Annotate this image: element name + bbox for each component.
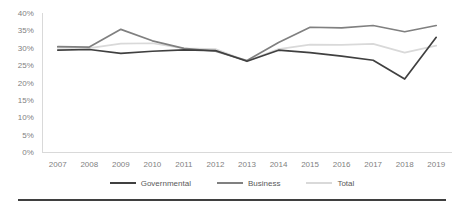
x-axis-tick: 2009	[112, 160, 130, 169]
x-axis-tick: 2015	[301, 160, 319, 169]
legend-item[interactable]: Total	[306, 179, 354, 188]
series-line	[58, 37, 436, 79]
x-axis-tick: 2018	[396, 160, 414, 169]
legend-label: Business	[248, 179, 280, 188]
x-axis-tick: 2014	[270, 160, 288, 169]
x-axis-tick: 2007	[49, 160, 67, 169]
legend-item[interactable]: Business	[217, 179, 280, 188]
x-axis-tick-labels: 2007200820092010201120122013201420152016…	[0, 160, 464, 174]
x-axis-tick: 2019	[427, 160, 445, 169]
legend-label: Governmental	[141, 179, 191, 188]
series-line	[58, 26, 436, 61]
plot-area: 40%35%30%25%20%15%10%5%0%	[0, 0, 464, 160]
chart-legend: GovernmentalBusinessTotal	[0, 176, 464, 190]
x-axis-tick: 2011	[175, 160, 192, 169]
bottom-divider	[18, 199, 446, 201]
x-axis-tick: 2010	[143, 160, 161, 169]
line-chart-figure: 40%35%30%25%20%15%10%5%0% 20072008200920…	[0, 0, 464, 206]
x-axis-tick: 2008	[80, 160, 98, 169]
series-lines	[0, 0, 464, 160]
legend-swatch-icon	[110, 182, 136, 184]
x-axis-tick: 2016	[333, 160, 351, 169]
legend-swatch-icon	[306, 182, 332, 184]
legend-swatch-icon	[217, 182, 243, 184]
legend-item[interactable]: Governmental	[110, 179, 191, 188]
x-axis-tick: 2013	[238, 160, 256, 169]
legend-label: Total	[337, 179, 354, 188]
x-axis-tick: 2017	[364, 160, 382, 169]
x-axis-tick: 2012	[207, 160, 225, 169]
